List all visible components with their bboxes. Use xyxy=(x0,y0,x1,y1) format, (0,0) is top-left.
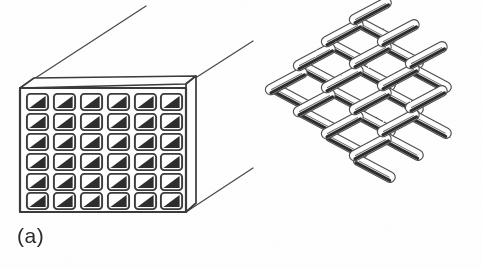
panel-b-woven-mesh: (b) xyxy=(240,0,482,269)
block-top-face xyxy=(20,76,196,88)
mesh-weave xyxy=(264,0,453,184)
mesh-warp-strands xyxy=(264,0,449,163)
panel-b-drawing xyxy=(240,0,482,269)
figure-root: (a) xyxy=(0,0,482,269)
panel-a-caption: (a) xyxy=(17,224,44,248)
block-right-face xyxy=(186,76,196,212)
panel-a-honeycomb-monolith: (a) xyxy=(0,0,255,269)
